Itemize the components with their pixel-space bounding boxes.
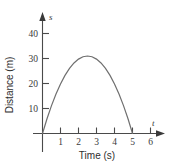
distance-time-graph-figure: 40 30 20 10 1 2 3 4 5 6 s t Time (s) Dis… bbox=[0, 0, 172, 166]
distance-curve bbox=[43, 56, 133, 134]
x-axis-ticks bbox=[61, 128, 151, 134]
x-axis-title: Time (s) bbox=[79, 150, 115, 161]
y-axis-ticks bbox=[43, 34, 50, 109]
y-axis-symbol-label: s bbox=[49, 12, 53, 22]
x-axis-arrowhead bbox=[156, 130, 165, 137]
x-tick-label-5: 5 bbox=[130, 137, 135, 147]
plot-canvas: 40 30 20 10 1 2 3 4 5 6 s t Time (s) Dis… bbox=[0, 0, 172, 166]
x-tick-label-4: 4 bbox=[112, 137, 117, 147]
y-tick-label-10: 10 bbox=[29, 104, 39, 114]
x-tick-label-3: 3 bbox=[94, 137, 99, 147]
x-tick-label-1: 1 bbox=[58, 137, 63, 147]
x-tick-label-2: 2 bbox=[76, 137, 81, 147]
y-tick-label-40: 40 bbox=[29, 29, 39, 39]
y-tick-label-30: 30 bbox=[29, 54, 39, 64]
x-tick-label-6: 6 bbox=[148, 137, 153, 147]
y-tick-label-20: 20 bbox=[29, 79, 39, 89]
x-axis-symbol-label: t bbox=[152, 118, 155, 128]
y-axis-arrowhead bbox=[39, 12, 45, 21]
y-axis-title: Distance (m) bbox=[4, 57, 15, 114]
